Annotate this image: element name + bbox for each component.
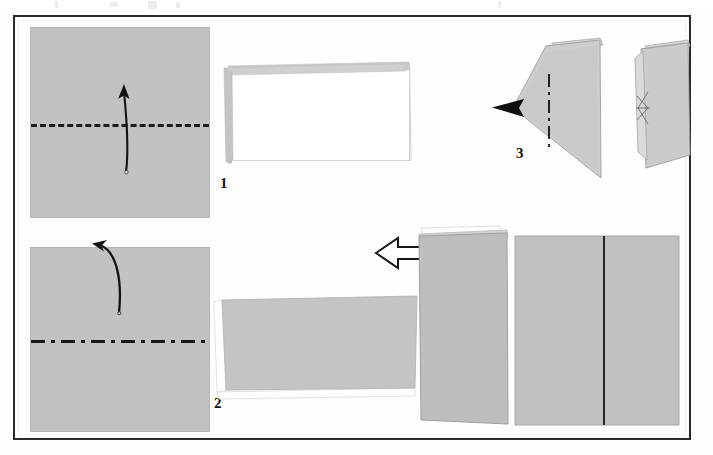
step-1-valley-fold-line	[31, 124, 209, 127]
scan-artifact-strip	[0, 0, 713, 13]
origami-diagram-page: 1 2 3 4	[0, 0, 713, 455]
step-label-1: 1	[220, 176, 228, 191]
step-2-mountain-fold-line	[31, 340, 209, 343]
step-label-4: 4	[478, 404, 486, 419]
step-1-source-sheet	[31, 28, 209, 217]
step-1-result-front-face	[230, 69, 410, 161]
step-label-2: 2	[214, 396, 222, 411]
step-label-3: 3	[516, 146, 524, 161]
